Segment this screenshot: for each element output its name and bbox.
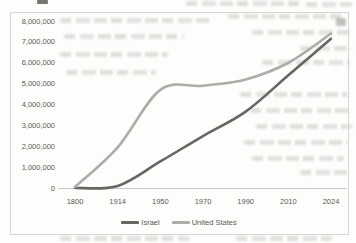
legend-label: Israel: [141, 218, 159, 227]
legend-item: United States: [172, 218, 237, 227]
legend-swatch-icon: [172, 221, 190, 224]
series-line-united-states: [75, 34, 331, 187]
document-page: 8,000,0007,000,0006,000,0005,000,0004,00…: [0, 0, 356, 243]
legend-swatch-icon: [121, 221, 139, 224]
legend-item: Israel: [121, 218, 159, 227]
legend-label: United States: [192, 218, 237, 227]
chart-legend: IsraelUnited States: [11, 217, 347, 228]
line-chart: [0, 0, 356, 243]
